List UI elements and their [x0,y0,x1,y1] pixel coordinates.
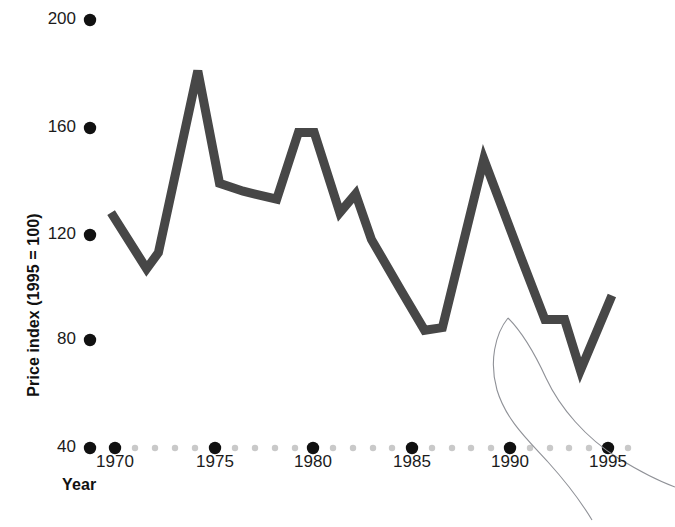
x-axis-title: Year [62,476,96,494]
x-tick-label-1995: 1995 [579,452,637,472]
y-axis-major-ticks [84,14,96,454]
y-tick-dot-200 [84,14,96,26]
y-tick-dot-120 [84,229,96,241]
x-tick-label-1980: 1980 [284,452,342,472]
y-axis-title: Price index (1995 = 100) [25,170,43,440]
x-axis-minor-ticks [132,445,631,451]
y-tick-dot-160 [84,122,96,134]
price-index-line [111,71,612,371]
x-tick-label-1985: 1985 [383,452,441,472]
y-tick-label-40: 40 [30,437,76,457]
y-tick-label-160: 160 [30,117,76,137]
chart-plot-area [0,0,675,527]
x-tick-label-1970: 1970 [86,452,144,472]
y-tick-label-200: 200 [30,9,76,29]
x-tick-label-1990: 1990 [481,452,539,472]
x-tick-label-1975: 1975 [186,452,244,472]
chart-container: 200 160 120 80 40 1970 1975 1980 1985 19… [0,0,675,527]
y-tick-dot-80 [84,334,96,346]
